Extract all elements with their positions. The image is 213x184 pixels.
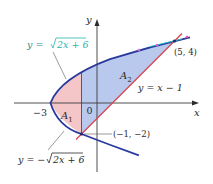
svg-text:y = −: y = − [17, 154, 45, 165]
area-between-curves-diagram: y x 0 −3 A1 A2 y = 2x + 6 y = − 2x + 6 y… [0, 0, 213, 184]
leader-lower-label [48, 131, 64, 150]
svg-text:y =: y = [26, 39, 43, 50]
svg-text:2x + 6: 2x + 6 [56, 39, 88, 50]
point-minus1-minus2 [80, 132, 83, 135]
svg-text:2x + 6: 2x + 6 [52, 154, 84, 165]
upper-curve-label: y = 2x + 6 [26, 38, 88, 50]
y-axis-label: y [85, 14, 92, 25]
x-axis-label: x [194, 107, 200, 118]
x-tick-minus-3: −3 [33, 107, 47, 118]
lower-curve-label: y = − 2x + 6 [17, 153, 84, 165]
x-axis-arrow-icon [192, 101, 199, 106]
highlight-dot [186, 36, 189, 39]
point-5-4 [173, 39, 176, 42]
y-axis-arrow-icon [95, 19, 100, 26]
highlight-dot [156, 44, 159, 47]
highlight-dot [138, 49, 141, 52]
origin-label: 0 [87, 105, 93, 116]
leader-upper-label [53, 52, 66, 79]
point-5-4-label: (5, 4) [174, 47, 197, 57]
line-label: y = x − 1 [137, 82, 183, 93]
point-minus1-minus2-label: (−1, −2) [113, 129, 150, 139]
